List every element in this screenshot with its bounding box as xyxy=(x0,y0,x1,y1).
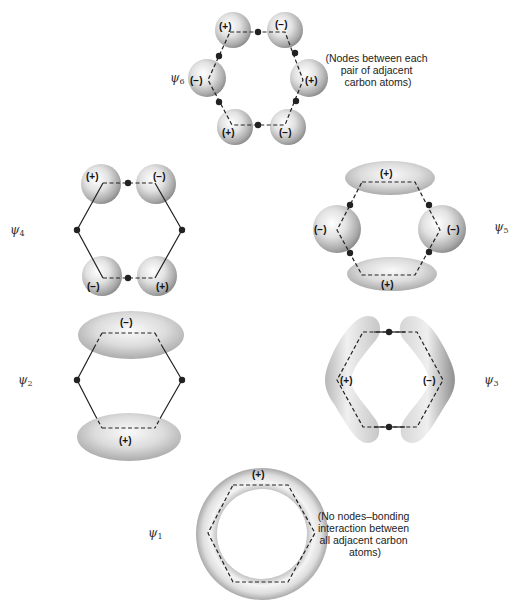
node-dot xyxy=(426,249,432,255)
bonding-note: (No nodes–bonding interaction between al… xyxy=(318,510,413,558)
orbital-label: ψ6 xyxy=(170,71,185,86)
node-note: (Nodes between each pair of adjacent car… xyxy=(325,52,430,88)
node-dot xyxy=(386,329,392,335)
sign-label: (+) xyxy=(305,75,318,86)
node-dot xyxy=(179,377,185,383)
sign-label: (−) xyxy=(423,375,436,386)
orbital-label: ψ1 xyxy=(148,526,163,541)
node-dot xyxy=(347,202,353,208)
sign-label: (+) xyxy=(381,279,394,290)
sign-label: (+) xyxy=(380,168,393,179)
node-dot xyxy=(179,227,185,233)
orbital-psi3: (+) (−) ψ3 xyxy=(325,316,498,443)
node-dot xyxy=(255,122,261,128)
orbital-label: ψ5 xyxy=(494,220,509,235)
lobe-sphere xyxy=(81,164,121,204)
orbital-psi4: (+) (−) (−) (+) ψ4 xyxy=(10,164,185,296)
sign-label: (−) xyxy=(314,224,327,235)
sign-label: (+) xyxy=(86,171,99,182)
sign-label: (+) xyxy=(219,21,232,32)
orbital-psi6: (+) (−) (−) (+) (+) (−) ψ6 (Nodes betwee… xyxy=(170,12,431,145)
sign-label: (−) xyxy=(87,281,100,292)
sign-label: (+) xyxy=(119,435,132,446)
lobe-sphere xyxy=(267,12,303,48)
sign-label: (−) xyxy=(275,19,288,30)
node-dot xyxy=(216,99,222,105)
orbital-label: ψ3 xyxy=(484,373,499,388)
orbital-psi2: (−) (+) ψ2 xyxy=(18,311,185,461)
benzene-mo-diagram: (+) (−) (−) (+) (+) (−) ψ6 (Nodes betwee… xyxy=(0,0,521,607)
node-dot xyxy=(426,202,432,208)
node-dot xyxy=(74,377,80,383)
sign-label: (+) xyxy=(252,469,265,480)
node-dot xyxy=(347,250,353,256)
node-dot xyxy=(125,275,131,281)
sign-label: (−) xyxy=(120,317,133,328)
node-dot xyxy=(255,29,261,35)
lobe-band xyxy=(325,316,380,443)
node-dot xyxy=(216,53,222,59)
orbital-psi1: (+) ψ1 (No nodes–bonding interaction bet… xyxy=(148,468,412,600)
sign-label: (+) xyxy=(222,127,235,138)
node-dot xyxy=(74,227,80,233)
torus-hole xyxy=(217,489,307,579)
node-dot xyxy=(292,50,298,56)
orbital-psi5: (+) (−) (−) (+) ψ5 xyxy=(313,161,509,291)
sign-label: (−) xyxy=(447,224,460,235)
sign-label: (−) xyxy=(153,171,166,182)
sign-label: (−) xyxy=(279,127,292,138)
node-dot xyxy=(293,98,299,104)
sign-label: (+) xyxy=(340,375,353,386)
orbital-label: ψ2 xyxy=(18,373,33,388)
node-dot xyxy=(125,180,131,186)
sign-label: (−) xyxy=(190,75,203,86)
orbital-label: ψ4 xyxy=(10,223,25,238)
sign-label: (+) xyxy=(156,281,169,292)
node-dot xyxy=(386,424,392,430)
